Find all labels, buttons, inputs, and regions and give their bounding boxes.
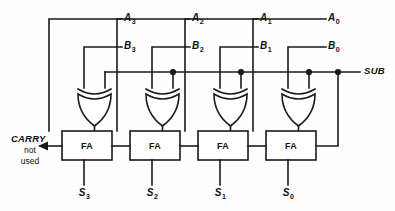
circuit-diagram: A3 A2 A1 A0 B3 B2 B1 B0 SUB CARRY not us…	[0, 0, 395, 211]
junction-dot-sub-carryin	[335, 69, 341, 75]
xor-gate-2-body	[146, 94, 179, 126]
control-label-sub: SUB	[364, 66, 385, 76]
output-label-s1: S1	[215, 188, 226, 198]
input-label-b3: B3	[124, 41, 135, 51]
xor-gate-0-arc	[282, 89, 315, 94]
xor-gate-1-body	[214, 94, 247, 126]
carry-out-label: CARRY	[11, 134, 46, 144]
input-label-b1: B1	[260, 41, 271, 51]
input-label-b2: B2	[192, 41, 203, 51]
xor-gate-0-body	[282, 94, 315, 126]
output-label-s0: S0	[283, 188, 294, 198]
fa-label-0: FA	[285, 141, 297, 151]
junction-dot-sub-stage0	[306, 69, 312, 75]
circuit-schematic-svg	[0, 0, 395, 211]
carry-out-note-line2: used	[21, 157, 39, 166]
input-label-a1: A1	[260, 13, 271, 23]
junction-dot-sub-stage1	[238, 69, 244, 75]
wire-b0	[288, 47, 326, 88]
wire-sub-to-carryin	[316, 72, 338, 146]
xor-gate-2-arc	[146, 89, 179, 94]
input-label-b0: B0	[328, 41, 339, 51]
fa-label-1: FA	[217, 141, 229, 151]
xor-gate-3-body	[78, 94, 111, 126]
fa-label-2: FA	[149, 141, 161, 151]
carry-out-note-line1: not	[24, 146, 36, 155]
input-label-a0: A0	[328, 13, 339, 23]
fa-label-3: FA	[81, 141, 93, 151]
junction-dot-sub-stage2	[170, 69, 176, 75]
output-label-s3: S3	[79, 188, 90, 198]
xor-gate-1-arc	[214, 89, 247, 94]
output-label-s2: S2	[147, 188, 158, 198]
input-label-a3: A3	[124, 13, 135, 23]
xor-gate-3-arc	[78, 89, 111, 94]
input-label-a2: A2	[192, 13, 203, 23]
